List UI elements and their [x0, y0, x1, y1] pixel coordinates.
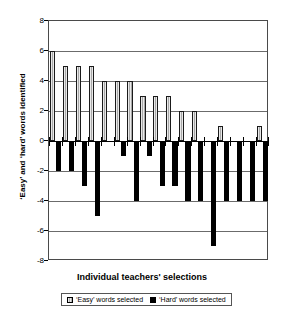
y-tick-label: -2: [10, 166, 44, 175]
bar-hard: [121, 141, 126, 156]
y-tick-label: 0: [10, 136, 44, 145]
bar-easy: [63, 66, 68, 141]
bar-hard: [160, 141, 165, 186]
bar-hard: [147, 141, 152, 156]
x-tick-mark: [243, 137, 244, 146]
y-axis-ticks: 86420-2-4-6-8: [0, 20, 44, 260]
x-tick-mark: [153, 137, 154, 146]
bar-easy: [192, 111, 197, 141]
legend-item-hard: ‘Hard’ words selected: [150, 296, 226, 303]
x-tick-mark: [165, 137, 166, 146]
bar-easy: [89, 66, 94, 141]
bar-easy: [153, 96, 158, 141]
bar-easy: [115, 81, 120, 141]
bar-hard: [69, 141, 74, 171]
bar-hard: [95, 141, 100, 216]
bar-hard: [172, 141, 177, 186]
x-tick-mark: [49, 137, 50, 146]
y-tick-label: 8: [10, 16, 44, 25]
bar-hard: [82, 141, 87, 186]
x-tick-mark: [217, 137, 218, 146]
bar-easy: [166, 96, 171, 141]
bar-easy: [218, 126, 223, 141]
legend-label-easy: ‘Easy’ words selected: [76, 296, 143, 303]
bar-hard: [250, 141, 255, 201]
x-tick-mark: [268, 137, 269, 146]
bar-hard: [198, 141, 203, 201]
bar-hard: [237, 141, 242, 201]
y-tick-mark: [44, 260, 48, 261]
legend-label-hard: ‘Hard’ words selected: [159, 296, 226, 303]
legend-swatch-hard-icon: [150, 297, 156, 303]
bar-hard: [56, 141, 61, 171]
bar-easy: [76, 66, 81, 141]
bar-easy: [179, 111, 184, 141]
bar-hard: [211, 141, 216, 246]
y-tick-label: -6: [10, 226, 44, 235]
x-tick-mark: [114, 137, 115, 146]
x-tick-mark: [88, 137, 89, 146]
x-tick-mark: [256, 137, 257, 146]
x-tick-mark: [75, 137, 76, 146]
y-tick-label: -8: [10, 256, 44, 265]
bar-easy: [127, 81, 132, 141]
x-tick-mark: [127, 137, 128, 146]
bar-hard: [185, 141, 190, 201]
y-tick-label: 2: [10, 106, 44, 115]
bar-hard: [224, 141, 229, 201]
bar-easy: [102, 81, 107, 141]
legend-swatch-easy-icon: [67, 297, 73, 303]
y-tick-label: 6: [10, 46, 44, 55]
x-tick-mark: [101, 137, 102, 146]
x-axis-title: Individual teachers' selections: [0, 272, 284, 282]
x-tick-mark: [62, 137, 63, 146]
bar-easy: [257, 126, 262, 141]
x-tick-mark: [191, 137, 192, 146]
x-tick-mark: [204, 137, 205, 146]
bar-hard: [134, 141, 139, 201]
chart-legend: ‘Easy’ words selected ‘Hard’ words selec…: [61, 293, 232, 306]
bar-hard: [263, 141, 268, 201]
bar-series-container: [49, 21, 267, 259]
plot-area: [48, 20, 268, 260]
x-tick-mark: [178, 137, 179, 146]
bar-easy: [140, 96, 145, 141]
x-tick-mark: [140, 137, 141, 146]
x-tick-mark: [230, 137, 231, 146]
bar-easy: [50, 51, 55, 141]
y-tick-label: -4: [10, 196, 44, 205]
legend-item-easy: ‘Easy’ words selected: [67, 296, 143, 303]
y-tick-label: 4: [10, 76, 44, 85]
chart-figure: ‘Easy’ and ‘hard’ words identified 86420…: [0, 0, 284, 320]
